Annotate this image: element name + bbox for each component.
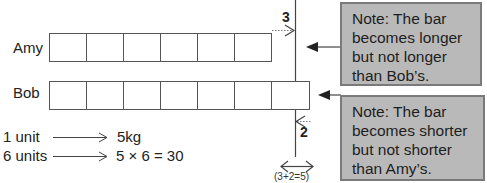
bar-label-bob: Bob (13, 84, 40, 101)
difference-label: (3+2=5) (274, 171, 309, 182)
unit-cell (124, 82, 161, 109)
unit-cell (124, 34, 161, 61)
equation-right-2: 5 × 6 = 30 (116, 147, 184, 164)
unit-cell (235, 82, 272, 109)
bar-amy (49, 33, 272, 62)
equation-left-1: 1 unit (3, 128, 40, 145)
marker-top-label: 3 (282, 9, 290, 25)
marker-bottom-label: 2 (300, 124, 308, 140)
unit-cell (87, 82, 124, 109)
unit-cell (235, 34, 271, 61)
equation-right-1: 5kg (117, 128, 141, 145)
bar-label-amy: Amy (13, 39, 43, 56)
unit-cell (198, 34, 235, 61)
unit-cell (161, 34, 198, 61)
note-longer: Note: The bar becomes longer but not lon… (340, 2, 482, 86)
pointer-arrow-icon (318, 90, 330, 100)
arrow-right-icon (285, 25, 294, 36)
equation-left-2: 6 units (3, 147, 47, 164)
unit-cell (50, 34, 87, 61)
pointer-arrow-icon (306, 42, 318, 52)
note-shorter: Note: The bar becomes shorter but not sh… (340, 95, 485, 181)
bar-bob (49, 81, 310, 110)
unit-cell (87, 34, 124, 61)
unit-cell (272, 82, 309, 109)
unit-cell (198, 82, 235, 109)
unit-cell (161, 82, 198, 109)
unit-cell (50, 82, 87, 109)
